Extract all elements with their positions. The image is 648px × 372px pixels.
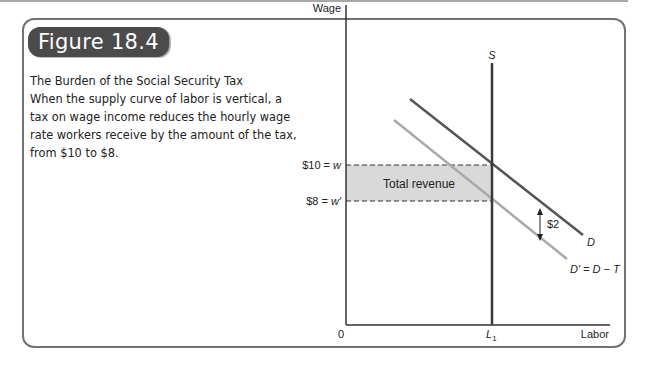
w-tick-label: $10 = w: [302, 159, 342, 171]
demand-label: D: [587, 236, 595, 248]
supply-label: S: [488, 49, 496, 61]
origin-label: 0: [338, 328, 344, 340]
x-axis-label: Labor: [581, 328, 609, 340]
y-axis-label: Wage: [313, 2, 341, 14]
total-revenue-label: Total revenue: [383, 177, 455, 191]
tax-amount-label: $2: [547, 218, 559, 230]
supply-demand-chart: Wage S $10 = w $8 = w′ Total revenue $2 …: [0, 0, 648, 372]
arrow-up-icon: [537, 208, 543, 215]
demand-after-tax-label: D′ = D − T: [570, 263, 621, 275]
wprime-tick-label: $8 = w′: [306, 195, 342, 207]
l1-tick-label: L1: [486, 328, 497, 343]
